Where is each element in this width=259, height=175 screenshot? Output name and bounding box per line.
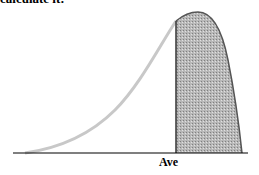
curve-left bbox=[25, 21, 176, 153]
distribution-diagram: Ave bbox=[0, 0, 259, 175]
average-label: Ave bbox=[159, 155, 179, 169]
